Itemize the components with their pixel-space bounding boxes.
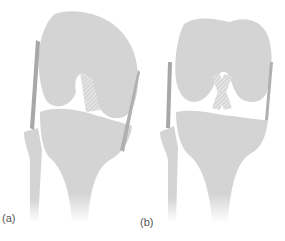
knee-illustration-b [140,0,285,241]
knee-illustration-a [0,0,145,241]
tibia [40,109,132,222]
lateral-ligament [30,40,40,130]
panel-label-a: (a) [2,212,15,224]
cruciate-ligaments [212,74,232,110]
tibia [176,111,268,222]
panel-b: (b) [140,0,285,241]
lateral-ligament [166,62,172,128]
fibula [24,128,42,222]
panel-label-b: (b) [140,216,153,228]
panel-a: (a) [0,0,145,241]
fibula [160,126,178,222]
